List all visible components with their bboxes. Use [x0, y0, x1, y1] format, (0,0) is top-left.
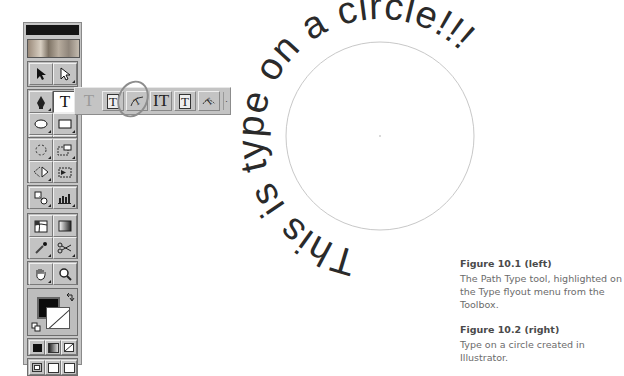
caption-body: The Path Type tool, highlighted on the T…: [460, 272, 624, 311]
figure-captions: Figure 10.1 (left) The Path Type tool, h…: [460, 257, 624, 364]
caption-title: Figure 10.2 (right): [460, 323, 624, 336]
circle-center-point: [379, 135, 381, 137]
caption-title: Figure 10.1 (left): [460, 257, 624, 270]
caption-figure-10-1: Figure 10.1 (left) The Path Type tool, h…: [460, 257, 624, 311]
path-text[interactable]: This is type on a circle!!!: [229, 0, 484, 284]
caption-figure-10-2: Figure 10.2 (right) Type on a circle cre…: [460, 323, 624, 364]
caption-body: Type on a circle created in Illustrator.: [460, 338, 624, 364]
